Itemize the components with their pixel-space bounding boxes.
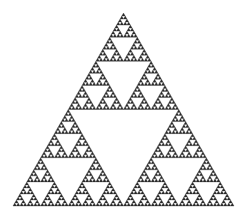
- fractal-cell: [77, 91, 80, 94]
- fractal-cell: [92, 161, 95, 164]
- fractal-cell: [96, 203, 99, 206]
- fractal-cell: [105, 91, 108, 94]
- fractal-cell: [170, 194, 173, 197]
- fractal-cell: [118, 55, 121, 58]
- fractal-cell: [91, 164, 94, 167]
- fractal-cell: [92, 203, 95, 206]
- fractal-cell: [79, 191, 82, 194]
- fractal-cell: [168, 94, 171, 97]
- fractal-cell: [86, 173, 89, 176]
- fractal-cell: [58, 197, 61, 200]
- fractal-cell: [89, 197, 92, 200]
- fractal-cell: [89, 70, 92, 73]
- fractal-cell: [75, 197, 78, 200]
- fractal-cell: [168, 100, 171, 103]
- fractal-cell: [117, 58, 120, 61]
- fractal-cell: [32, 194, 35, 197]
- fractal-cell: [61, 131, 64, 134]
- fractal-cell: [86, 179, 89, 182]
- fractal-cell: [137, 46, 140, 49]
- fractal-cell: [89, 82, 92, 85]
- fractal-cell: [98, 103, 101, 106]
- sierpinski-triangle: [0, 0, 247, 218]
- fractal-cell: [134, 34, 137, 37]
- fractal-cell: [180, 116, 183, 119]
- fractal-cell: [44, 167, 47, 170]
- fractal-cell: [117, 52, 120, 55]
- fractal-cell: [130, 197, 133, 200]
- fractal-cell: [160, 140, 163, 143]
- fractal-cell: [210, 167, 213, 170]
- fractal-cell: [172, 149, 175, 152]
- fractal-cell: [153, 67, 156, 70]
- fractal-cell: [141, 46, 144, 49]
- fractal-cell: [165, 88, 168, 91]
- fractal-cell: [189, 143, 192, 146]
- fractal-cell: [163, 182, 166, 185]
- fractal-cell: [98, 164, 101, 167]
- fractal-cell: [86, 100, 89, 103]
- fractal-cell: [117, 22, 120, 25]
- fractal-cell: [206, 167, 209, 170]
- fractal-cell: [137, 185, 140, 188]
- fractal-cell: [96, 82, 99, 85]
- fractal-cell: [87, 73, 90, 76]
- fractal-cell: [110, 94, 113, 97]
- fractal-cell: [54, 143, 57, 146]
- fractal-cell: [79, 88, 82, 91]
- fractal-cell: [182, 155, 185, 158]
- fractal-cell: [79, 203, 82, 206]
- fractal-cell: [63, 200, 66, 203]
- fractal-cell: [194, 200, 197, 203]
- fractal-cell: [141, 94, 144, 97]
- fractal-cell: [222, 200, 225, 203]
- fractal-cell: [34, 173, 37, 176]
- fractal-cell: [103, 106, 106, 109]
- fractal-cell: [158, 106, 161, 109]
- fractal-cell: [48, 203, 51, 206]
- fractal-cell: [98, 79, 101, 82]
- fractal-cell: [63, 128, 66, 131]
- fractal-cell: [206, 161, 209, 164]
- fractal-cell: [155, 203, 158, 206]
- fractal-cell: [120, 16, 123, 19]
- fractal-cell: [60, 122, 63, 125]
- fractal-cell: [82, 179, 85, 182]
- fractal-cell: [77, 152, 80, 155]
- fractal-cell: [113, 34, 116, 37]
- fractal-cell: [155, 106, 158, 109]
- fractal-cell: [113, 46, 116, 49]
- fractal-cell: [79, 143, 82, 146]
- fractal-cell: [125, 31, 128, 34]
- fractal-cell: [151, 155, 154, 158]
- fractal-cell: [222, 188, 225, 191]
- fractal-cell: [158, 203, 161, 206]
- fractal-cell: [96, 58, 99, 61]
- fractal-cell: [148, 64, 151, 67]
- fractal-cell: [217, 203, 220, 206]
- fractal-cell: [175, 106, 178, 109]
- fractal-cell: [34, 203, 37, 206]
- fractal-cell: [106, 82, 109, 85]
- fractal-cell: [193, 191, 196, 194]
- fractal-cell: [82, 143, 85, 146]
- fractal-cell: [191, 182, 194, 185]
- fractal-cell: [84, 188, 87, 191]
- fractal-cell: [117, 34, 120, 37]
- fractal-cell: [127, 100, 130, 103]
- fractal-cell: [92, 155, 95, 158]
- fractal-cell: [48, 155, 51, 158]
- fractal-cell: [27, 185, 30, 188]
- fractal-cell: [82, 106, 85, 109]
- fractal-cell: [153, 200, 156, 203]
- fractal-cell: [86, 155, 89, 158]
- fractal-cell: [165, 143, 168, 146]
- fractal-cell: [70, 200, 73, 203]
- fractal-cell: [218, 182, 221, 185]
- fractal-cell: [210, 203, 213, 206]
- fractal-cell: [80, 85, 83, 88]
- fractal-cell: [213, 191, 216, 194]
- fractal-cell: [186, 131, 189, 134]
- fractal-cell: [124, 203, 127, 206]
- fractal-cell: [156, 194, 159, 197]
